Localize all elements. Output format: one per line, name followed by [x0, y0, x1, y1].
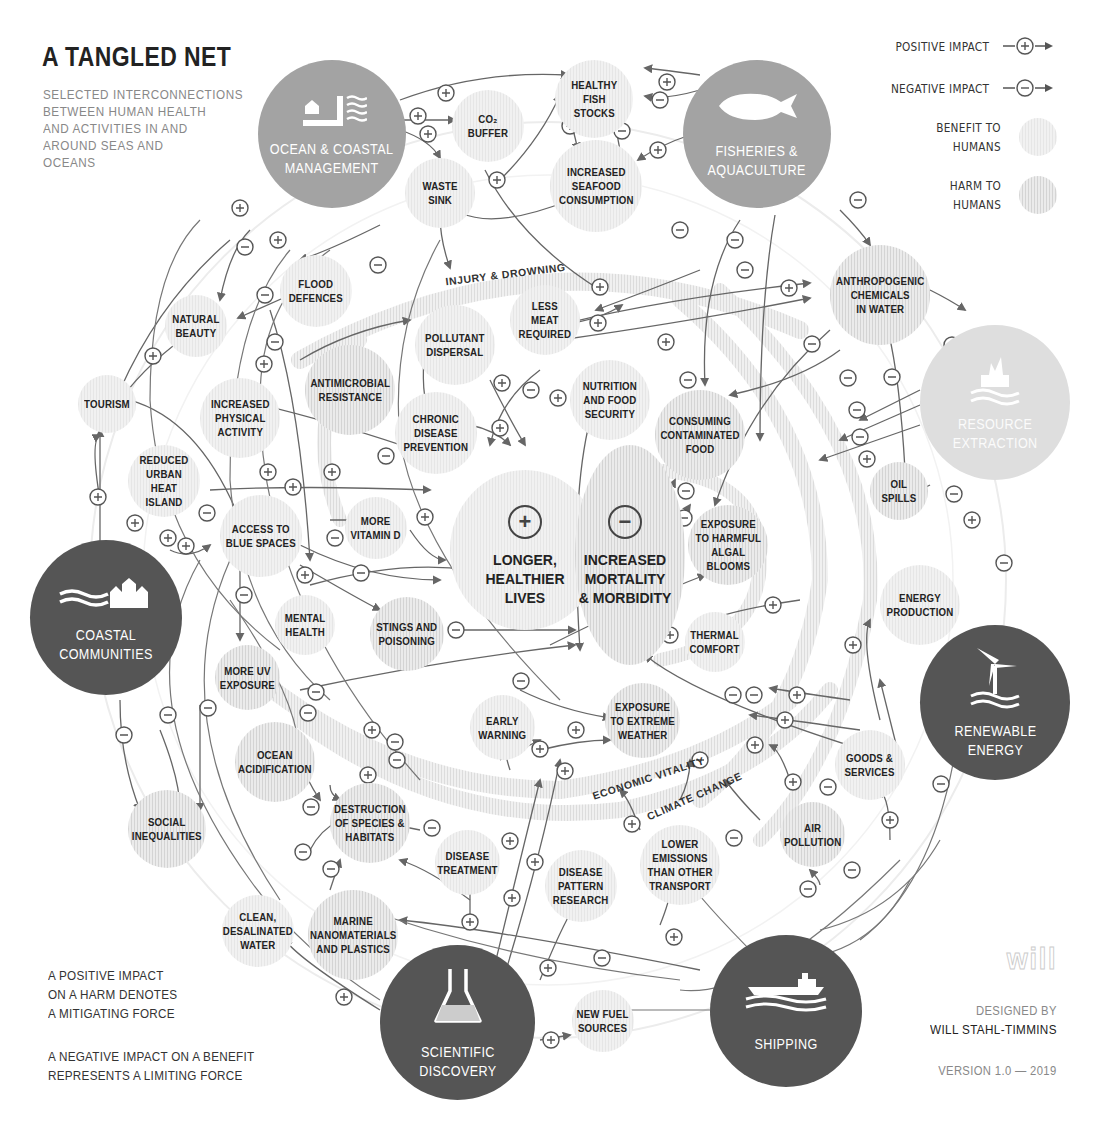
- plus-icon: +: [508, 505, 542, 539]
- node-reduced-urban-heat-island[interactable]: REDUCED URBAN HEAT ISLAND: [128, 445, 200, 517]
- designed-by-label: DESIGNED BY: [976, 1004, 1057, 1018]
- node-more-uv-exposure[interactable]: MORE UV EXPOSURE: [215, 645, 280, 710]
- node-less-meat-required[interactable]: LESS MEAT REQUIRED: [510, 285, 580, 355]
- node-disease-pattern-research[interactable]: DISEASE PATTERN RESEARCH: [545, 850, 617, 922]
- harm-swatch: [1019, 176, 1057, 214]
- version-label: VERSION 1.0 — 2019: [939, 1064, 1057, 1078]
- node-disease-treatment[interactable]: DISEASE TREATMENT: [435, 830, 500, 895]
- node-label: INCREASED SEAFOOD CONSUMPTION: [559, 165, 634, 207]
- node-label: MORE UV EXPOSURE: [220, 664, 275, 692]
- node-marine-nanomaterials-plastics[interactable]: MARINE NANOMATERIALS AND PLASTICS: [308, 890, 398, 980]
- node-label: LESS MEAT REQUIRED: [519, 299, 572, 341]
- node-label: CONSUMING CONTAMINATED FOOD: [660, 414, 739, 456]
- node-label: EXPOSURE TO EXTREME WEATHER: [610, 700, 675, 742]
- fish-icon: [715, 88, 799, 124]
- node-flood-defences[interactable]: FLOOD DEFENCES: [280, 255, 352, 327]
- benefit-swatch: [1019, 118, 1057, 156]
- node-label: OIL SPILLS: [882, 477, 917, 505]
- coastal-management-icon: [297, 90, 367, 126]
- node-harmful-algal-blooms[interactable]: EXPOSURE TO HARMFUL ALGAL BLOOMS: [688, 505, 768, 585]
- node-label: NUTRITION AND FOOD SECURITY: [583, 379, 637, 421]
- hub-label: FISHERIES & AQUACULTURE: [708, 142, 806, 180]
- node-waste-sink[interactable]: WASTE SINK: [405, 158, 475, 228]
- node-access-to-blue-spaces[interactable]: ACCESS TO BLUE SPACES: [220, 495, 302, 577]
- node-label: LOWER EMISSIONS THAN OTHER TRANSPORT: [647, 837, 712, 893]
- hub-label: RENEWABLE ENERGY: [954, 722, 1036, 760]
- hub-label: COASTAL COMMUNITIES: [59, 626, 153, 664]
- increased-mortality-morbidity: − INCREASED MORTALITY & MORBIDITY: [540, 505, 710, 608]
- node-label: DISEASE TREATMENT: [437, 849, 498, 877]
- legend-benefit: BENEFIT TO HUMANS: [929, 118, 1057, 156]
- node-goods-services[interactable]: GOODS & SERVICES: [835, 730, 905, 800]
- legend-label: BENEFIT TO HUMANS: [936, 118, 1001, 156]
- node-label: NATURAL BEAUTY: [172, 312, 219, 340]
- node-label: CO₂ BUFFER: [468, 112, 508, 140]
- node-air-pollution[interactable]: AIR POLLUTION: [780, 802, 845, 867]
- node-destruction-species-habitats[interactable]: DESTRUCTION OF SPECIES & HABITATS: [330, 783, 410, 863]
- ship-icon: [744, 969, 828, 1013]
- node-ocean-acidification[interactable]: OCEAN ACIDIFICATION: [235, 722, 315, 802]
- node-label: TOURISM: [84, 397, 130, 411]
- node-label: GOODS & SERVICES: [845, 751, 895, 779]
- node-oil-spills[interactable]: OIL SPILLS: [870, 462, 928, 520]
- hub-scientific-discovery[interactable]: SCIENTIFIC DISCOVERY: [380, 945, 535, 1100]
- hub-label: RESOURCE EXTRACTION: [953, 415, 1038, 453]
- node-stings-poisoning[interactable]: STINGS AND POISONING: [370, 597, 444, 671]
- node-thermal-comfort[interactable]: THERMAL COMFORT: [685, 612, 745, 672]
- node-label: POLLUTANT DISPERSAL: [425, 331, 484, 359]
- node-label: ACCESS TO BLUE SPACES: [226, 522, 296, 550]
- node-label: REDUCED URBAN HEAT ISLAND: [132, 453, 195, 509]
- wind-turbine-icon: [967, 646, 1023, 712]
- diagram-title: A TANGLED NET: [42, 42, 231, 73]
- node-social-inequalities[interactable]: SOCIAL INEQUALITIES: [128, 790, 206, 868]
- node-lower-emissions[interactable]: LOWER EMISSIONS THAN OTHER TRANSPORT: [640, 825, 720, 905]
- node-early-warning[interactable]: EARLY WARNING: [470, 695, 535, 760]
- node-healthy-fish-stocks[interactable]: HEALTHY FISH STOCKS: [555, 60, 633, 138]
- node-label: CHRONIC DISEASE PREVENTION: [404, 412, 469, 454]
- legend-label: NEGATIVE IMPACT: [891, 79, 989, 98]
- hub-resource-extraction[interactable]: RESOURCE EXTRACTION: [920, 325, 1070, 480]
- node-increased-seafood-consumption[interactable]: INCREASED SEAFOOD CONSUMPTION: [550, 140, 642, 232]
- node-anthropogenic-chemicals[interactable]: ANTHROPOGENIC CHEMICALS IN WATER: [830, 245, 930, 345]
- node-consuming-contaminated-food[interactable]: CONSUMING CONTAMINATED FOOD: [655, 390, 745, 480]
- legend-harm: HARM TO HUMANS: [944, 176, 1057, 214]
- designer-name: WILL STAHL-TIMMINS: [930, 1022, 1057, 1037]
- node-clean-desalinated-water[interactable]: CLEAN, DESALINATED WATER: [222, 895, 294, 967]
- node-label: AIR POLLUTION: [784, 821, 842, 849]
- node-nutrition-food-security[interactable]: NUTRITION AND FOOD SECURITY: [570, 360, 650, 440]
- node-tourism[interactable]: TOURISM: [78, 375, 136, 433]
- node-co2-buffer[interactable]: CO₂ BUFFER: [452, 90, 524, 162]
- legend-label: POSITIVE IMPACT: [895, 37, 989, 56]
- hub-label: SHIPPING: [754, 1035, 817, 1054]
- node-label: HEALTHY FISH STOCKS: [571, 78, 617, 120]
- node-energy-production[interactable]: ENERGY PRODUCTION: [880, 565, 960, 645]
- center-harm-label: INCREASED MORTALITY & MORBIDITY: [579, 551, 672, 608]
- legend-label: HARM TO HUMANS: [950, 176, 1001, 214]
- node-label: EXPOSURE TO HARMFUL ALGAL BLOOMS: [695, 517, 761, 573]
- will-logo: will: [1006, 942, 1057, 976]
- hub-fisheries-aquaculture[interactable]: FISHERIES & AQUACULTURE: [683, 60, 831, 208]
- node-chronic-disease-prevention[interactable]: CHRONIC DISEASE PREVENTION: [395, 392, 477, 474]
- node-mental-health[interactable]: MENTAL HEALTH: [275, 595, 335, 655]
- node-new-fuel-sources[interactable]: NEW FUEL SOURCES: [572, 990, 634, 1052]
- node-natural-beauty[interactable]: NATURAL BEAUTY: [165, 295, 227, 357]
- node-label: EARLY WARNING: [478, 714, 526, 742]
- node-label: MORE VITAMIN D: [351, 514, 401, 542]
- node-increased-physical-activity[interactable]: INCREASED PHYSICAL ACTIVITY: [200, 378, 280, 458]
- node-more-vitamin-d[interactable]: MORE VITAMIN D: [345, 497, 407, 559]
- hub-shipping[interactable]: SHIPPING: [710, 935, 862, 1087]
- plus-arrow-icon: [1001, 36, 1057, 56]
- node-label: ANTHROPOGENIC CHEMICALS IN WATER: [836, 274, 924, 316]
- node-extreme-weather[interactable]: EXPOSURE TO EXTREME WEATHER: [605, 683, 680, 758]
- node-label: MENTAL HEALTH: [285, 611, 326, 639]
- node-pollutant-dispersal[interactable]: POLLUTANT DISPERSAL: [415, 305, 495, 385]
- diagram-canvas: A TANGLED NET SELECTED INTERCONNECTIONS …: [0, 0, 1093, 1125]
- node-label: SOCIAL INEQUALITIES: [132, 815, 202, 843]
- node-label: MARINE NANOMATERIALS AND PLASTICS: [310, 914, 397, 956]
- hub-ocean-coastal-management[interactable]: OCEAN & COASTAL MANAGEMENT: [258, 60, 406, 208]
- note-mitigating-force: A POSITIVE IMPACT ON A HARM DENOTES A MI…: [48, 966, 177, 1023]
- node-antimicrobial-resistance[interactable]: ANTIMICROBIAL RESISTANCE: [305, 345, 395, 435]
- hub-renewable-energy[interactable]: RENEWABLE ENERGY: [920, 625, 1070, 780]
- legend-positive-impact: POSITIVE IMPACT: [885, 36, 1057, 56]
- hub-coastal-communities[interactable]: COASTAL COMMUNITIES: [30, 540, 182, 695]
